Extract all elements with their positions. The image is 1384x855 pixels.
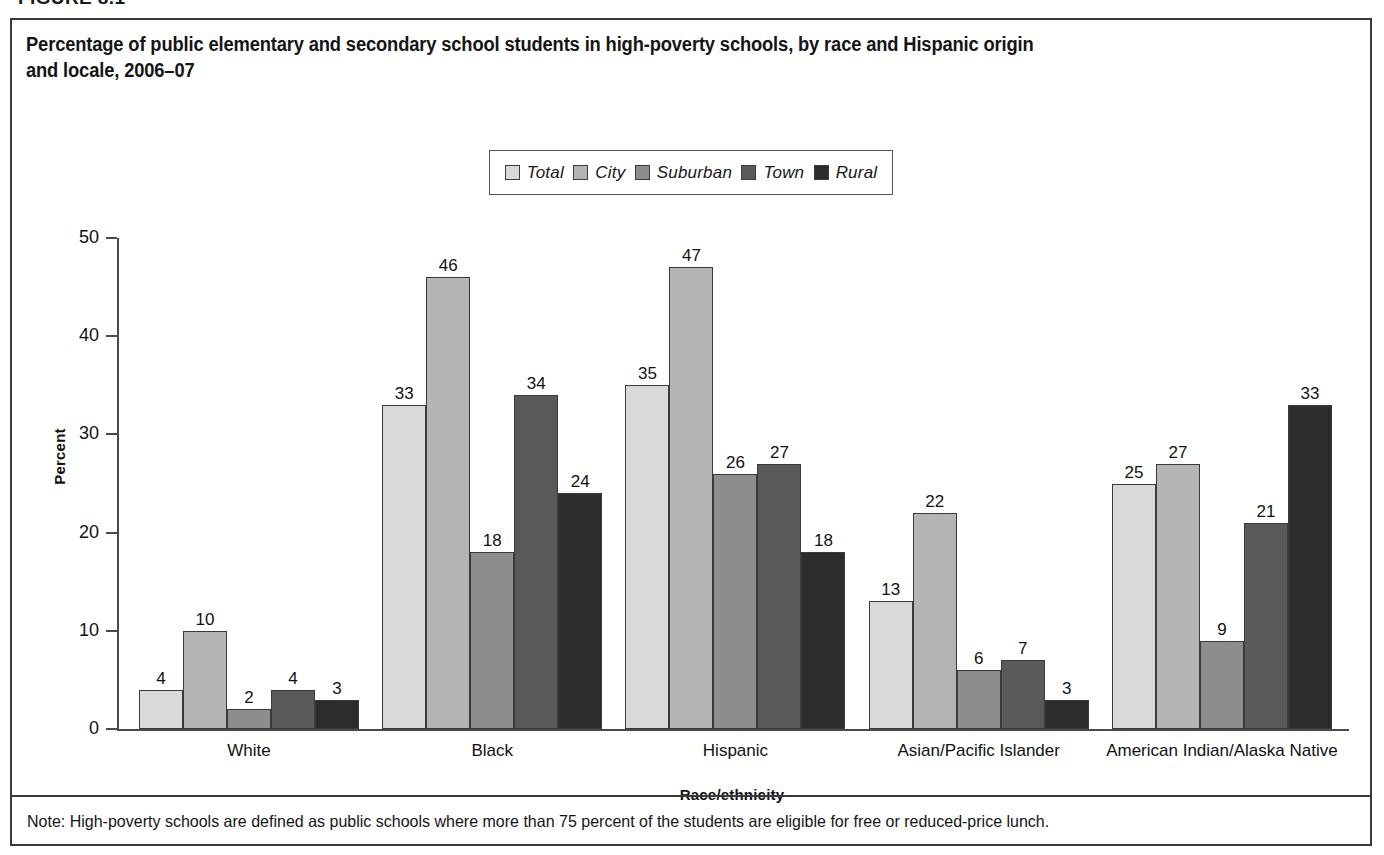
bar-group: 3346183424Black <box>382 238 602 729</box>
figure-number: FIGURE 8.1 <box>18 0 125 9</box>
bar-value-label: 34 <box>527 375 546 393</box>
bar: 26 <box>713 474 757 729</box>
bar: 27 <box>757 464 801 729</box>
bar-slot: 34 <box>514 238 558 729</box>
bar-slot: 3 <box>315 238 359 729</box>
bar-group-bars: 252792133 <box>1112 238 1332 729</box>
bar-value-label: 24 <box>571 473 590 491</box>
bar: 6 <box>957 670 1001 729</box>
legend-label: Suburban <box>657 163 732 183</box>
figure-title-line-1: Percentage of public elementary and seco… <box>26 31 1248 57</box>
bar-slot: 2 <box>227 238 271 729</box>
figure-note: Note: High-poverty schools are defined a… <box>27 810 1307 832</box>
bar-slot: 24 <box>558 238 602 729</box>
bar-slot: 47 <box>669 238 713 729</box>
y-axis-tick <box>106 335 117 337</box>
x-axis-category-label: Asian/Pacific Islander <box>897 741 1060 761</box>
bar-slot: 13 <box>869 238 913 729</box>
bar-value-label: 3 <box>1062 680 1071 698</box>
legend-label: Rural <box>836 163 878 183</box>
bar-group-bars: 410243 <box>139 238 359 729</box>
bar-group-bars: 3547262718 <box>625 238 845 729</box>
y-axis-tick-label: 0 <box>55 718 99 739</box>
bar-slot: 18 <box>801 238 845 729</box>
bar: 3 <box>1045 700 1089 729</box>
legend-label: City <box>595 163 625 183</box>
bar: 18 <box>470 552 514 729</box>
y-axis-tick-label: 40 <box>55 325 99 346</box>
bar: 18 <box>801 552 845 729</box>
bar-value-label: 22 <box>925 493 944 511</box>
bar-slot: 4 <box>139 238 183 729</box>
bar-value-label: 10 <box>196 611 215 629</box>
bar: 47 <box>669 267 713 729</box>
bar-slot: 35 <box>625 238 669 729</box>
x-axis-category-label: Hispanic <box>703 741 768 761</box>
bar-slot: 6 <box>957 238 1001 729</box>
bar-value-label: 13 <box>881 581 900 599</box>
bar-value-label: 47 <box>682 247 701 265</box>
bar-slot: 3 <box>1045 238 1089 729</box>
bar-slot: 18 <box>470 238 514 729</box>
bar-slot: 26 <box>713 238 757 729</box>
legend-item-suburban: Suburban <box>635 163 732 183</box>
bar: 25 <box>1112 484 1156 730</box>
bar-slot: 21 <box>1244 238 1288 729</box>
x-axis-line <box>117 729 1349 731</box>
figure-title: Percentage of public elementary and seco… <box>26 31 1248 83</box>
bar-value-label: 27 <box>770 444 789 462</box>
bar: 35 <box>625 385 669 729</box>
bar-slot: 7 <box>1001 238 1045 729</box>
bar: 34 <box>514 395 558 729</box>
bar: 4 <box>139 690 183 729</box>
bar-slot: 4 <box>271 238 315 729</box>
note-divider <box>12 795 1370 797</box>
bar-value-label: 27 <box>1168 444 1187 462</box>
bar-value-label: 33 <box>1300 385 1319 403</box>
bar-value-label: 18 <box>814 532 833 550</box>
bar: 7 <box>1001 660 1045 729</box>
bar-value-label: 4 <box>288 670 297 688</box>
legend-label: Total <box>527 163 564 183</box>
bar-value-label: 26 <box>726 454 745 472</box>
bar-value-label: 46 <box>439 257 458 275</box>
x-axis-category-label: American Indian/Alaska Native <box>1106 741 1338 761</box>
y-axis-tick <box>106 630 117 632</box>
x-axis-category-label: Black <box>471 741 513 761</box>
y-axis-tick-label: 10 <box>55 620 99 641</box>
bar-value-label: 6 <box>974 650 983 668</box>
bar-group: 252792133American Indian/Alaska Native <box>1112 238 1332 729</box>
bar: 33 <box>382 405 426 729</box>
legend-item-town: Town <box>741 163 804 183</box>
chart-legend: TotalCitySuburbanTownRural <box>489 150 893 195</box>
bar: 3 <box>315 700 359 729</box>
bar-slot: 33 <box>382 238 426 729</box>
bar: 22 <box>913 513 957 729</box>
bar-group-bars: 3346183424 <box>382 238 602 729</box>
bar-value-label: 33 <box>395 385 414 403</box>
bar: 9 <box>1200 641 1244 729</box>
bar-value-label: 35 <box>638 365 657 383</box>
bar-group: 3547262718Hispanic <box>625 238 845 729</box>
legend-item-total: Total <box>505 163 564 183</box>
bar-slot: 9 <box>1200 238 1244 729</box>
bar: 10 <box>183 631 227 729</box>
bar-slot: 22 <box>913 238 957 729</box>
bar: 4 <box>271 690 315 729</box>
bar: 46 <box>426 277 470 729</box>
figure-title-line-2: and locale, 2006–07 <box>26 57 1248 83</box>
bar-value-label: 9 <box>1217 621 1226 639</box>
bar-value-label: 18 <box>483 532 502 550</box>
bar-value-label: 4 <box>156 670 165 688</box>
legend-item-rural: Rural <box>814 163 878 183</box>
bar: 24 <box>558 493 602 729</box>
bar-value-label: 2 <box>244 689 253 707</box>
y-axis-line <box>117 238 119 729</box>
bar-slot: 10 <box>183 238 227 729</box>
bar: 21 <box>1244 523 1288 729</box>
y-axis-tick <box>106 728 117 730</box>
bar-slot: 27 <box>757 238 801 729</box>
legend-label: Town <box>763 163 804 183</box>
bar-slot: 46 <box>426 238 470 729</box>
y-axis-tick <box>106 237 117 239</box>
